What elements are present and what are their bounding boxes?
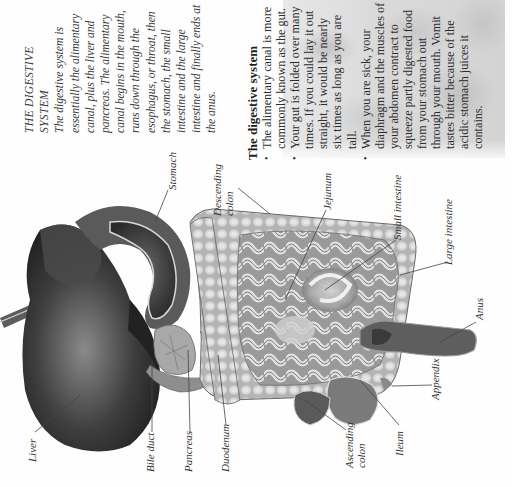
fact-item: Your gut is folded over many times. If y… bbox=[288, 2, 358, 160]
label-jejunum: Jejunum bbox=[321, 173, 333, 210]
intro-body: The digestive system is essentially the … bbox=[52, 3, 219, 133]
label-small-intestine: Small intestine bbox=[391, 175, 403, 240]
label-ileum: Ileum bbox=[393, 431, 405, 456]
fact-item: When you are sick, your diaphragm and th… bbox=[359, 2, 486, 160]
textbook-page: THE DIGESTIVE SYSTEM The digestive syste… bbox=[0, 0, 512, 487]
intro-text-block: THE DIGESTIVE SYSTEM The digestive syste… bbox=[22, 3, 220, 133]
intro-title-line1: THE DIGESTIVE bbox=[22, 3, 37, 133]
label-appendix: Appendix bbox=[429, 358, 441, 400]
label-stomach: Stomach bbox=[166, 152, 178, 190]
facts-list: The alimentary canal is more commonly kn… bbox=[260, 2, 486, 160]
label-bile-duct: Bile duct bbox=[144, 433, 156, 472]
label-descending-colon: Descending colon bbox=[211, 168, 235, 216]
label-ascending-colon: Ascending colon bbox=[343, 420, 367, 468]
facts-box: The digestive system The alimentary cana… bbox=[245, 2, 486, 160]
label-large-intestine: Large intestine bbox=[442, 199, 454, 265]
facts-heading: The digestive system bbox=[245, 2, 260, 160]
intro-title-line2: SYSTEM bbox=[37, 3, 52, 133]
label-liver: Liver bbox=[26, 439, 38, 462]
label-pancreas: Pancreas bbox=[182, 431, 194, 472]
label-anus: Anus bbox=[473, 298, 485, 320]
fact-item: The alimentary canal is more commonly kn… bbox=[260, 2, 288, 160]
label-duodenum: Duodenum bbox=[219, 424, 231, 472]
